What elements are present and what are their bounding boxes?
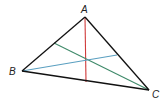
vertex-label-B: B xyxy=(9,66,16,77)
cevian-from-A xyxy=(85,17,86,82)
vertex-label-A: A xyxy=(80,4,88,15)
triangle-diagram: A B C xyxy=(0,0,168,102)
cevian-from-B xyxy=(22,55,117,71)
side-AB xyxy=(22,17,85,71)
side-CA xyxy=(85,17,149,90)
vertex-label-C: C xyxy=(152,89,160,100)
